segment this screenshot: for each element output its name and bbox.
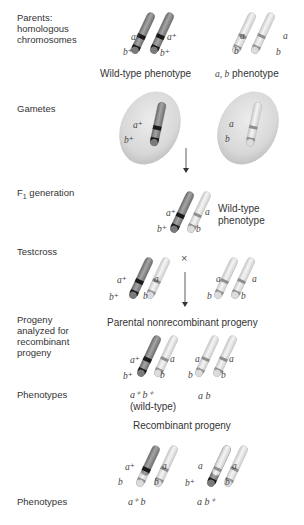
allele-b: b bbox=[188, 370, 193, 380]
allele-b: b bbox=[221, 370, 226, 380]
allele-a-plus: a⁺ bbox=[167, 31, 177, 42]
testcross-heterozygote bbox=[128, 256, 171, 300]
phenotype-recombinant-1: a⁺ b bbox=[128, 496, 146, 507]
allele-b: b bbox=[196, 224, 201, 234]
allele-a: a bbox=[198, 461, 203, 471]
label-testcross: Testcross bbox=[17, 246, 57, 257]
allele-a-plus: a⁺ bbox=[133, 119, 143, 130]
gamete-wild bbox=[108, 81, 193, 174]
allele-b: b bbox=[234, 46, 239, 56]
allele-b: b bbox=[143, 291, 148, 301]
caption-parental-nonrecombinant: Parental nonrecombinant progeny bbox=[107, 317, 258, 328]
allele-b: b bbox=[160, 370, 165, 380]
allele-b: b bbox=[241, 291, 246, 301]
caption-ab-italic: a, b bbox=[215, 69, 229, 79]
phenotype-nonrecombinant-wild: a⁺ b⁺ bbox=[130, 389, 153, 400]
phenotype-recombinant-2: a b⁺ bbox=[197, 496, 215, 507]
label-progeny: Progeny analyzed for recombinant progeny bbox=[17, 314, 69, 358]
gamete-mutant bbox=[206, 81, 291, 174]
arrow-down-icon bbox=[183, 148, 189, 173]
cross-symbol: × bbox=[181, 252, 187, 264]
allele-b: b bbox=[276, 47, 281, 57]
allele-a: a bbox=[170, 354, 175, 364]
allele-a: a bbox=[162, 461, 167, 471]
allele-a: a bbox=[252, 274, 257, 284]
caption-wild-type-parenthetical: (wild-type) bbox=[130, 401, 176, 412]
allele-b: b bbox=[225, 477, 230, 487]
allele-b: b bbox=[118, 477, 123, 487]
label-phenotypes-nonrecombinant: Phenotypes bbox=[17, 389, 67, 400]
caption-ab-rest: phenotype bbox=[229, 68, 279, 79]
label-phenotypes-recombinant: Phenotypes bbox=[17, 496, 67, 507]
allele-a: a bbox=[216, 274, 221, 284]
label-f1-generation: F1 generation bbox=[17, 187, 74, 202]
allele-a-plus: a⁺ bbox=[125, 461, 135, 472]
allele-a: a bbox=[240, 31, 245, 41]
arrow-down-icon bbox=[182, 272, 188, 307]
allele-b: b bbox=[154, 477, 159, 487]
caption-ab-phenotype: a, b phenotype bbox=[215, 68, 279, 79]
label-gametes: Gametes bbox=[17, 103, 56, 114]
caption-recombinant-progeny: Recombinant progeny bbox=[133, 420, 231, 431]
allele-b: b bbox=[225, 134, 230, 144]
allele-a: a bbox=[283, 31, 288, 41]
allele-a-plus: a⁺ bbox=[117, 274, 127, 285]
allele-a: a bbox=[229, 119, 234, 129]
caption-f1-wild-type-phenotype: Wild-type phenotype bbox=[218, 203, 265, 227]
label-f1-rest: generation bbox=[27, 187, 75, 198]
allele-b-plus: b⁺ bbox=[185, 477, 195, 488]
allele-b-plus: b⁺ bbox=[123, 370, 133, 381]
allele-a-plus: a⁺ bbox=[131, 31, 141, 42]
allele-a-plus: a⁺ bbox=[130, 354, 140, 365]
allele-a: a bbox=[205, 207, 210, 217]
allele-a-plus: a⁺ bbox=[166, 207, 176, 218]
label-parents: Parents: homologous chromosomes bbox=[17, 12, 77, 45]
allele-b-plus: b⁺ bbox=[123, 46, 133, 57]
allele-a: a bbox=[232, 461, 237, 471]
allele-b: b bbox=[207, 291, 212, 301]
allele-b-plus: b⁺ bbox=[160, 47, 170, 58]
allele-b-plus: b⁺ bbox=[124, 134, 134, 145]
allele-b-plus: b⁺ bbox=[109, 291, 119, 302]
allele-b-plus: b⁺ bbox=[157, 223, 167, 234]
allele-a: a bbox=[229, 354, 234, 364]
allele-a: a bbox=[195, 354, 200, 364]
phenotype-nonrecombinant-mutant: a b bbox=[198, 390, 211, 401]
caption-wild-type-phenotype: Wild-type phenotype bbox=[100, 68, 191, 79]
allele-a: a bbox=[154, 274, 159, 284]
